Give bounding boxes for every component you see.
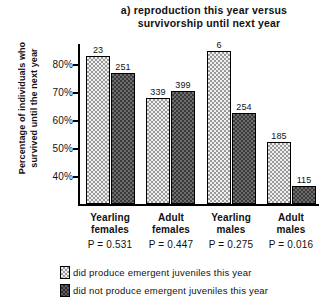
bar-label: 251 <box>115 62 130 72</box>
y-axis-label-line-1: Percentage of individuals who <box>16 28 28 188</box>
bar-adult-males-produced: 185 <box>267 142 291 204</box>
legend-label-not-produced: did not produce emergent juveniles this … <box>73 285 268 296</box>
chart-title-line-2: survivorship until next year <box>78 17 330 30</box>
y-tick-label-70: 70% <box>52 87 73 98</box>
legend-item-produced: did produce emergent juveniles this year <box>60 266 336 279</box>
legend-swatch-dark-icon <box>60 284 70 297</box>
bar-label: 399 <box>175 80 190 90</box>
bar-yearling-males-not-produced: 254 <box>232 113 256 204</box>
bar-adult-females-not-produced: 399 <box>171 91 195 204</box>
y-axis-label: Percentage of individuals who survived u… <box>16 28 40 188</box>
y-tick-label-60: 60% <box>52 115 73 126</box>
y-tick-label-40: 40% <box>52 171 73 182</box>
bar-label: 185 <box>271 131 286 141</box>
x-axis-categories: Yearling females P = 0.531 Adult females… <box>78 212 330 258</box>
y-tick-label-80: 80% <box>52 59 73 70</box>
category-line-2: males <box>255 224 327 236</box>
bar-label: 115 <box>297 175 312 185</box>
legend-item-not-produced: did not produce emergent juveniles this … <box>60 284 336 297</box>
bar-label: 254 <box>236 102 251 112</box>
bar-yearling-females-not-produced: 251 <box>111 73 135 204</box>
category-line-1: Adult <box>255 212 327 224</box>
bar-adult-males-not-produced: 115 <box>292 186 316 204</box>
legend: did produce emergent juveniles this year… <box>60 266 336 302</box>
chart-title: a) reproduction this year versus survivo… <box>78 4 330 30</box>
legend-swatch-light-icon <box>60 266 70 279</box>
bar-adult-females-produced: 339 <box>146 98 170 204</box>
category-adult-males: Adult males P = 0.016 <box>255 212 327 251</box>
chart-title-line-1: a) reproduction this year versus <box>78 4 330 17</box>
figure-panel-a: a) reproduction this year versus survivo… <box>0 0 336 306</box>
x-axis-line <box>78 204 319 206</box>
bar-label: 339 <box>150 87 165 97</box>
category-pvalue: P = 0.016 <box>255 239 327 251</box>
bar-yearling-males-produced: 6 <box>207 51 231 204</box>
bar-label: 23 <box>93 45 103 55</box>
plot-area: 80% 70% 60% 50% 40% 23 251 339 3 <box>78 44 324 206</box>
bar-yearling-females-produced: 23 <box>86 56 110 204</box>
y-tick-label-50: 50% <box>52 143 73 154</box>
bar-label: 6 <box>216 40 221 50</box>
y-axis-line <box>78 44 80 206</box>
y-axis-label-line-2: survived until the next year <box>28 28 40 188</box>
legend-label-produced: did produce emergent juveniles this year <box>73 267 252 278</box>
